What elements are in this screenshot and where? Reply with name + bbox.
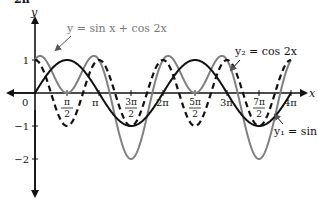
x-tick-numerator: 3π (125, 97, 137, 107)
corner-label: 2π (14, 0, 30, 6)
annotation-cos2x-label: y₂ = cos 2x (234, 45, 298, 58)
ticks (32, 60, 291, 159)
x-tick-denominator: 2 (192, 109, 198, 119)
x-tick-denominator: 2 (256, 109, 262, 119)
annotation-sin-label: y₁ = sin x (273, 125, 318, 138)
function-graph: 2π x y 0 π2π3π22π5π23π7π24π1−1−2 y = sin… (0, 0, 318, 211)
y-axis-label: y (30, 6, 38, 19)
origin-label: 0 (22, 97, 28, 108)
x-tick-numerator: 5π (189, 97, 201, 107)
annotation-sin: y₁ = sin x (273, 115, 318, 138)
x-tick-numerator: 7π (253, 97, 265, 107)
x-axis-label: x (309, 87, 316, 100)
y-tick-label: −2 (14, 154, 29, 165)
x-tick-denominator: 2 (64, 109, 70, 119)
x-tick-numerator: π (64, 97, 70, 107)
y-tick-label: −1 (14, 121, 29, 132)
x-tick-label: π (92, 97, 99, 108)
annotation-sum-label: y = sin x + cos 2x (66, 22, 168, 35)
annotation-sum: y = sin x + cos 2x (56, 22, 168, 50)
y-tick-label: 1 (23, 55, 29, 66)
x-tick-denominator: 2 (128, 109, 134, 119)
